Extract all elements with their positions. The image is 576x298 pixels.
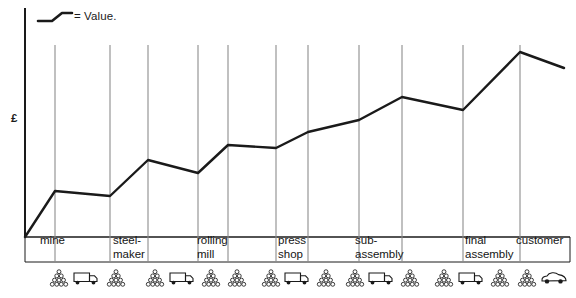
stage-label-line1: rolling xyxy=(197,234,228,246)
stack-icon xyxy=(518,270,535,286)
car-icon xyxy=(542,273,566,284)
stage-label-line1: final xyxy=(465,234,486,246)
stage-label-line2: shop xyxy=(278,248,306,262)
stage-label-line1: sub- xyxy=(355,234,377,246)
stack-icon xyxy=(107,270,124,286)
truck-icon xyxy=(459,273,482,285)
stack-icon xyxy=(202,270,219,286)
stage-label-line2: mill xyxy=(197,248,228,262)
stage-label-line2: maker xyxy=(113,248,145,262)
stack-icon xyxy=(401,270,418,286)
stack-icon xyxy=(346,270,363,286)
stage-label-line1: steel- xyxy=(113,234,141,246)
stage-label-6: customer xyxy=(516,234,563,248)
stack-icon xyxy=(50,270,67,286)
stack-icon xyxy=(146,270,163,286)
stack-icon xyxy=(317,270,334,286)
stage-label-line2: assembly xyxy=(465,248,514,262)
y-axis-label: £ xyxy=(11,112,17,124)
truck-icon xyxy=(74,273,97,285)
stage-label-4: sub-assembly xyxy=(355,234,404,261)
legend-step-line-icon xyxy=(38,13,72,21)
value-chain-chart: = Value. £ minesteel-makerrollingmillpre… xyxy=(0,0,576,298)
stack-icon xyxy=(491,270,508,286)
stack-icon xyxy=(435,270,452,286)
stack-icon xyxy=(228,270,245,286)
stage-label-5: finalassembly xyxy=(465,234,514,261)
stage-label-line1: press xyxy=(278,234,306,246)
stage-label-3: pressshop xyxy=(278,234,306,261)
value-line-series xyxy=(25,52,564,237)
stage-label-2: rollingmill xyxy=(197,234,228,261)
stage-label-1: steel-maker xyxy=(113,234,145,261)
gridlines-group xyxy=(55,45,520,262)
stage-label-line1: mine xyxy=(40,234,65,246)
legend-label: = Value. xyxy=(74,10,116,22)
stage-label-0: mine xyxy=(40,234,65,248)
truck-icon xyxy=(369,273,392,285)
process-icons-layer xyxy=(50,270,566,286)
stage-label-line2: assembly xyxy=(355,248,404,262)
truck-icon xyxy=(170,273,193,285)
truck-icon xyxy=(285,273,308,285)
stage-label-line1: customer xyxy=(516,234,563,246)
stack-icon xyxy=(262,270,279,286)
